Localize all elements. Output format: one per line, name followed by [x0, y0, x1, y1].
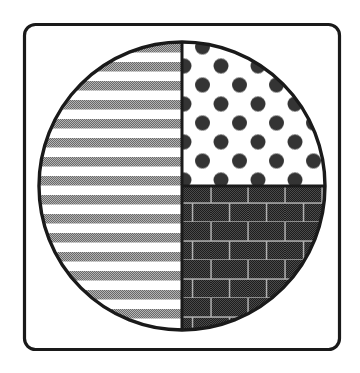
- pie-chart: Horizontal stripes Polka dots Brick: [0, 0, 360, 373]
- pie-chart-svg: [0, 0, 360, 373]
